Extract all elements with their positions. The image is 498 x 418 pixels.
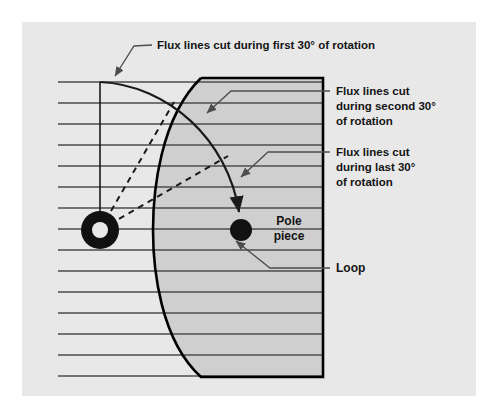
label-second-30-line-1: Flux lines cut — [336, 85, 410, 97]
label-second-30-line-2: during second 30° — [336, 100, 436, 112]
label-pole-piece: Pole piece — [274, 214, 305, 243]
label-last-30-line-3: of rotation — [336, 176, 393, 188]
label-pole-piece-line-2: piece — [274, 229, 305, 243]
label-flux-lines-first-30: Flux lines cut during first 30° of rotat… — [157, 39, 375, 51]
loop-ring — [81, 211, 119, 249]
flux-cutting-diagram: Flux lines cut during first 30° of rotat… — [0, 0, 498, 418]
loop-dot — [230, 219, 252, 241]
loop-ring-inner — [92, 222, 108, 238]
label-loop: Loop — [336, 261, 365, 275]
label-second-30-line-3: of rotation — [336, 115, 393, 127]
label-pole-piece-line-1: Pole — [276, 214, 302, 228]
label-last-30-line-1: Flux lines cut — [336, 146, 410, 158]
label-last-30-line-2: during last 30° — [336, 161, 416, 173]
